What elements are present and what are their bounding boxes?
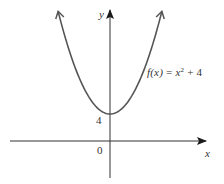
function-exponent: 2 xyxy=(180,66,184,74)
function-label: f(x) = x2 + 4 xyxy=(147,67,202,78)
equals-sign: = xyxy=(166,66,172,78)
y-axis-label: y xyxy=(99,9,104,20)
origin-label: 0 xyxy=(97,145,103,156)
function-graph xyxy=(0,0,224,184)
function-constant: + 4 xyxy=(187,66,202,78)
x-axis-label: x xyxy=(205,148,210,159)
y-intercept-label: 4 xyxy=(96,115,102,126)
function-name: f(x) xyxy=(147,66,163,78)
